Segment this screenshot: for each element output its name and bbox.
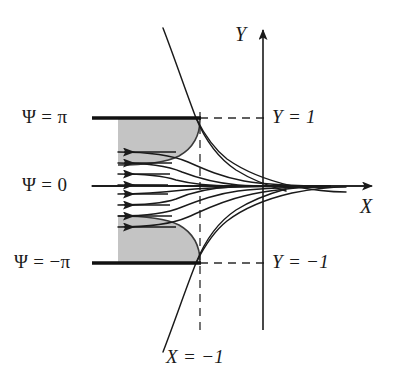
y-axis-label: Y xyxy=(235,24,246,44)
label-psi-zero: Ψ = 0 xyxy=(22,175,67,194)
upper-shaded-region xyxy=(118,119,200,165)
label-psi-minus-pi: Ψ = −π xyxy=(14,252,70,271)
potential-flow-figure: Ψ = π Ψ = 0 Ψ = −π Y = 1 Y = −1 X = −1 Y… xyxy=(0,0,395,385)
label-psi-pi: Ψ = π xyxy=(22,107,67,126)
label-y-equals-1: Y = 1 xyxy=(272,107,316,126)
streamline-upper-outer xyxy=(163,28,286,191)
label-y-equals-minus-1: Y = −1 xyxy=(272,252,329,271)
flow-arrow-group xyxy=(124,152,176,227)
lower-shaded-region xyxy=(118,216,200,262)
streamline-lower-outer xyxy=(163,189,286,352)
x-axis-label: X xyxy=(360,196,373,216)
label-x-equals-minus-1: X = −1 xyxy=(166,347,224,366)
